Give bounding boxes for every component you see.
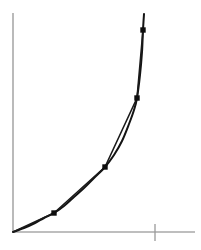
- point-2-marker: [102, 164, 107, 169]
- point-1-marker: [51, 210, 56, 215]
- point-4-marker: [140, 27, 145, 32]
- plot-canvas: [0, 0, 201, 250]
- point-3-marker: [134, 95, 139, 100]
- figure-container: [0, 0, 201, 250]
- plot-background: [0, 0, 201, 250]
